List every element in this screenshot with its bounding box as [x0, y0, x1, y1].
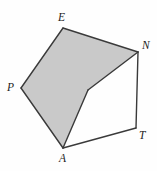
vertex-label-n: N	[142, 40, 150, 52]
vertex-label-e: E	[58, 12, 65, 24]
vertex-label-t: T	[139, 130, 145, 142]
vertex-label-p: P	[7, 82, 14, 94]
vertex-label-a: A	[59, 153, 66, 165]
polygon-diagram-svg	[0, 0, 157, 171]
geometry-figure-canvas: P E N T A	[0, 0, 157, 171]
